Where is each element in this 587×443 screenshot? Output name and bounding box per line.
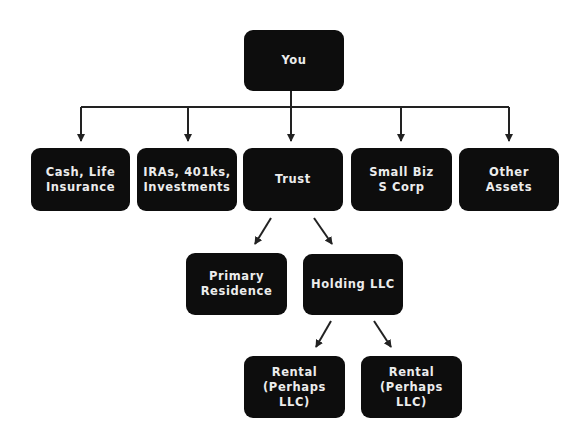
node-you: You <box>244 30 344 91</box>
node-primary-residence: PrimaryResidence <box>186 253 287 315</box>
node-trust: Trust <box>243 148 343 211</box>
node-label-line: Holding LLC <box>311 277 395 292</box>
node-label-line: Residence <box>201 284 273 299</box>
node-label-line: (Perhaps LLC) <box>365 380 458 410</box>
arrow-to-rental2 <box>374 321 391 347</box>
node-label-line: Insurance <box>46 180 116 195</box>
node-label-line: Assets <box>486 180 532 195</box>
node-rental-1: Rental(Perhaps LLC) <box>244 356 345 418</box>
arrow-to-primary <box>255 218 271 244</box>
node-iras-401ks-investments: IRAs, 401ks,Investments <box>137 148 237 211</box>
node-rental-2: Rental(Perhaps LLC) <box>361 356 462 418</box>
node-label-line: Investments <box>143 180 230 195</box>
arrow-to-rental1 <box>316 321 331 347</box>
node-label-line: IRAs, 401ks, <box>143 165 230 180</box>
node-holding-llc: Holding LLC <box>303 254 403 315</box>
node-small-biz-s-corp: Small BizS Corp <box>351 148 452 211</box>
node-label-line: Rental <box>248 365 341 380</box>
node-label-line: (Perhaps LLC) <box>248 380 341 410</box>
node-other-assets: OtherAssets <box>459 148 559 211</box>
node-label-line: S Corp <box>369 180 434 195</box>
node-label-line: Primary <box>201 269 273 284</box>
node-label-line: Small Biz <box>369 165 434 180</box>
arrow-to-holding <box>314 218 332 244</box>
node-label-line: Other <box>486 165 532 180</box>
node-label-line: Rental <box>365 365 458 380</box>
node-label-line: Cash, Life <box>46 165 116 180</box>
node-label: You <box>281 53 306 68</box>
node-cash-life-insurance: Cash, LifeInsurance <box>31 148 130 211</box>
node-label-line: Trust <box>275 172 311 187</box>
